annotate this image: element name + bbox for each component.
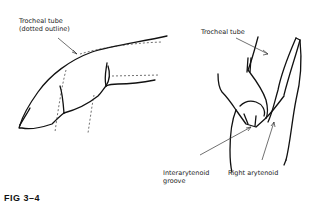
label-line-2: groove xyxy=(163,177,209,185)
figure-caption: FIG 3–4 xyxy=(4,193,40,201)
figure: Trocheal tube (dotted outline) Trocheal … xyxy=(0,0,311,201)
label-line-1: Trocheal tube xyxy=(19,17,70,25)
label-line-1: Interarytenoid xyxy=(163,169,209,177)
label-right-arytenoid: Right arytenoid xyxy=(228,169,278,177)
label-interarytenoid-groove: Interarytenoid groove xyxy=(163,169,209,185)
label-line-2: (dotted outline) xyxy=(19,25,70,33)
label-tracheal-tube-right: Trocheal tube xyxy=(201,28,245,36)
label-tracheal-tube-left: Trocheal tube (dotted outline) xyxy=(19,17,70,33)
